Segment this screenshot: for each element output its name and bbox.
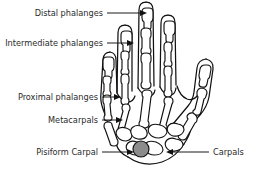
thumb-distal-phalanx — [199, 65, 211, 87]
carpal-capitate — [131, 126, 147, 140]
pinky-intermediate-phalanx — [103, 76, 111, 97]
label-carpals: Carpals — [213, 147, 244, 157]
carpal-scaphoid — [165, 138, 183, 151]
middle-proximal-phalanx — [141, 53, 151, 89]
label-metacarpals: Metacarpals — [48, 115, 98, 125]
ring-intermediate-phalanx — [121, 51, 129, 75]
carpal-hamate — [116, 127, 132, 141]
middle-metacarpal — [139, 90, 152, 128]
carpal-trapezoid — [148, 124, 167, 138]
middle-finger-bones — [139, 8, 153, 128]
label-proximal-phalanges: Proximal phalanges — [18, 92, 98, 102]
carpal-trapezium — [167, 123, 184, 136]
index-intermediate-phalanx — [164, 42, 172, 67]
hand-bones-diagram: Distal phalanges Intermediate phalanges … — [0, 0, 256, 169]
pisiform-carpal-bone — [133, 141, 149, 157]
label-distal-phalanges: Distal phalanges — [35, 8, 103, 18]
ring-proximal-phalanx — [121, 74, 129, 105]
index-distal-phalanx — [164, 21, 175, 43]
thumb-proximal-phalanx — [193, 88, 207, 115]
middle-intermediate-phalanx — [141, 28, 151, 55]
label-pisiform-carpal: Pisiform Carpal — [36, 147, 98, 157]
middle-distal-phalanx — [142, 8, 153, 30]
index-finger-bones — [159, 21, 175, 131]
index-proximal-phalanx — [164, 66, 172, 97]
label-intermediate-phalanges: Intermediate phalanges — [5, 38, 103, 48]
pinky-proximal-phalanx — [103, 95, 112, 121]
